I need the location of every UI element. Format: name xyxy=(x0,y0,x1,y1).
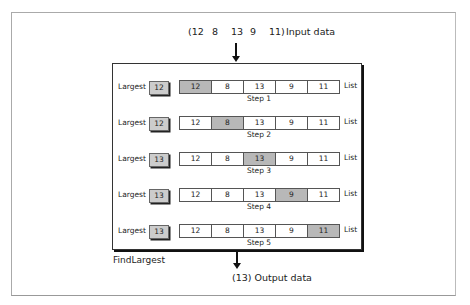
list-label: List xyxy=(344,153,357,162)
step-row: Largest 12 12813911 List Step 2 xyxy=(113,117,363,131)
list-cell: 11 xyxy=(308,81,339,93)
list-label: List xyxy=(344,225,357,234)
list: 12813911 xyxy=(179,80,340,94)
list-cell: 8 xyxy=(212,117,244,129)
list-cell: 11 xyxy=(308,225,339,237)
list-cell: 9 xyxy=(276,153,308,165)
input-value: (12 xyxy=(188,26,212,37)
list-cell: 8 xyxy=(212,189,244,201)
list: 12813911 xyxy=(179,224,340,238)
step-row: Largest 12 12813911 List Step 1 xyxy=(113,81,363,95)
list-cell: 13 xyxy=(244,189,276,201)
input-value: 11) xyxy=(269,26,286,37)
step-row: Largest 13 12813911 List Step 5 xyxy=(113,225,363,239)
largest-label: Largest xyxy=(118,154,146,163)
output-arrow-icon xyxy=(236,251,238,265)
list-cell: 11 xyxy=(308,189,339,201)
step-label: Step 5 xyxy=(179,238,339,247)
input-label: Input data xyxy=(286,26,335,37)
list: 12813911 xyxy=(179,152,340,166)
input-value: 13 xyxy=(231,26,250,37)
step-label: Step 2 xyxy=(179,130,339,139)
list-cell: 12 xyxy=(180,117,212,129)
list-cell: 9 xyxy=(276,81,308,93)
list-cell: 13 xyxy=(244,117,276,129)
input-data-line: (12813911)Input data xyxy=(188,26,335,37)
list-cell: 9 xyxy=(276,189,308,201)
find-largest-box: Largest 12 12813911 List Step 1 Largest … xyxy=(112,63,362,250)
list-cell: 8 xyxy=(212,153,244,165)
list: 12813911 xyxy=(179,116,340,130)
process-name: FindLargest xyxy=(113,255,165,265)
list-cell: 8 xyxy=(212,225,244,237)
list-cell: 11 xyxy=(308,153,339,165)
output-data-label: (13) Output data xyxy=(232,272,312,283)
input-value: 8 xyxy=(212,26,231,37)
list-cell: 9 xyxy=(276,225,308,237)
list-cell: 13 xyxy=(244,153,276,165)
input-arrow-icon xyxy=(235,43,237,58)
step-row: Largest 13 12813911 List Step 4 xyxy=(113,189,363,203)
list-cell: 13 xyxy=(244,81,276,93)
list-cell: 13 xyxy=(244,225,276,237)
list: 12813911 xyxy=(179,188,340,202)
largest-value: 12 xyxy=(149,117,169,131)
list-label: List xyxy=(344,81,357,90)
list-cell: 12 xyxy=(180,225,212,237)
list-label: List xyxy=(344,189,357,198)
list-cell: 8 xyxy=(212,81,244,93)
largest-label: Largest xyxy=(118,118,146,127)
step-label: Step 3 xyxy=(179,166,339,175)
list-cell: 9 xyxy=(276,117,308,129)
list-cell: 12 xyxy=(180,153,212,165)
list-cell: 11 xyxy=(308,117,339,129)
largest-label: Largest xyxy=(118,82,146,91)
step-label: Step 4 xyxy=(179,202,339,211)
list-label: List xyxy=(344,117,357,126)
list-cell: 12 xyxy=(180,81,212,93)
largest-label: Largest xyxy=(118,226,146,235)
largest-label: Largest xyxy=(118,190,146,199)
largest-value: 13 xyxy=(149,225,169,239)
largest-value: 13 xyxy=(149,189,169,203)
step-row: Largest 13 12813911 List Step 3 xyxy=(113,153,363,167)
largest-value: 12 xyxy=(149,81,169,95)
largest-value: 13 xyxy=(149,153,169,167)
list-cell: 12 xyxy=(180,189,212,201)
step-label: Step 1 xyxy=(179,94,339,103)
input-value: 9 xyxy=(250,26,269,37)
